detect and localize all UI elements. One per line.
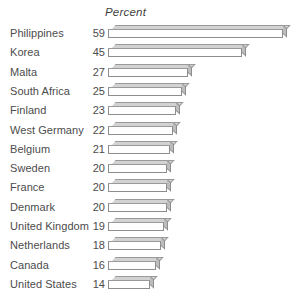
bar-front-face (108, 261, 156, 270)
bar-front-face (108, 183, 167, 192)
chart-row: Sweden20 (0, 159, 294, 179)
value-label: 19 (60, 220, 105, 232)
bar (108, 43, 246, 63)
bar-front-face (108, 87, 182, 96)
value-label: 20 (60, 181, 105, 193)
value-label: 23 (60, 104, 105, 116)
value-label: 59 (60, 27, 105, 39)
bar (108, 82, 186, 102)
bar (108, 101, 180, 121)
chart-row: South Africa25 (0, 82, 294, 102)
value-label: 45 (60, 46, 105, 58)
bar-front-face (108, 126, 173, 135)
bar-front-face (108, 68, 188, 77)
bar-front-face (108, 222, 164, 231)
chart-row: Korea45 (0, 43, 294, 63)
chart-row: Canada16 (0, 256, 294, 276)
chart-row: United States14 (0, 275, 294, 295)
category-label: France (10, 181, 45, 193)
category-label: Canada (10, 259, 49, 271)
chart-row: Philippines59 (0, 24, 294, 44)
bar-end-face (176, 102, 180, 115)
chart-row: Belgium21 (0, 140, 294, 160)
bar-front-face (108, 280, 150, 289)
chart-header-percent: Percent (105, 6, 146, 18)
percent-bar-chart: Percent Philippines59Korea45Malta27South… (0, 0, 294, 295)
bar (108, 159, 171, 179)
bar-front-face (108, 106, 176, 115)
category-label: Denmark (10, 201, 55, 213)
category-label: Malta (10, 66, 37, 78)
bar (108, 140, 174, 160)
value-label: 16 (60, 259, 105, 271)
chart-row: Netherlands18 (0, 236, 294, 256)
chart-row: Finland23 (0, 101, 294, 121)
chart-row: Denmark20 (0, 198, 294, 218)
chart-row: France20 (0, 178, 294, 198)
bar (108, 256, 160, 276)
bar-front-face (108, 241, 161, 250)
chart-row: United Kingdom19 (0, 217, 294, 237)
category-label: Korea (10, 46, 40, 58)
category-label: Philippines (10, 27, 64, 39)
bar (108, 217, 168, 237)
value-label: 21 (60, 143, 105, 155)
bar (108, 236, 165, 256)
chart-row: West Germany22 (0, 121, 294, 141)
bar (108, 198, 171, 218)
bar-front-face (108, 203, 167, 212)
bar-front-face (108, 164, 167, 173)
value-label: 14 (60, 278, 105, 290)
bar (108, 24, 287, 44)
category-label: Finland (10, 104, 46, 116)
bar-end-face (167, 179, 171, 192)
bar-front-face (108, 145, 170, 154)
bar-end-face (161, 237, 165, 250)
chart-row: Malta27 (0, 63, 294, 83)
bar-front-face (108, 29, 283, 38)
value-label: 18 (60, 239, 105, 251)
bar-end-face (242, 44, 246, 57)
value-label: 27 (60, 66, 105, 78)
value-label: 22 (60, 124, 105, 136)
category-label: Sweden (10, 162, 50, 174)
value-label: 20 (60, 201, 105, 213)
bar (108, 275, 154, 295)
category-label: Belgium (10, 143, 50, 155)
bar (108, 63, 192, 83)
value-label: 25 (60, 85, 105, 97)
bar (108, 178, 171, 198)
bar-front-face (108, 48, 242, 57)
bar (108, 121, 177, 141)
value-label: 20 (60, 162, 105, 174)
